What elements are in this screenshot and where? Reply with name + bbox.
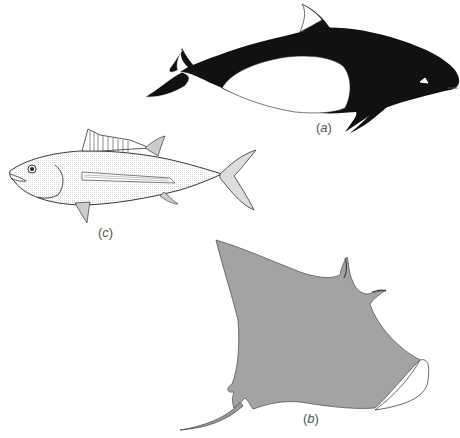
label-a-letter: a	[320, 120, 327, 135]
label-b: (b)	[303, 411, 319, 426]
label-b-letter: b	[307, 411, 314, 426]
illustration-canvas	[0, 0, 460, 438]
dolphin-tail-fluke	[145, 72, 189, 97]
tuna-tail-fin	[220, 150, 256, 210]
manta-ray-illustration	[180, 240, 429, 430]
label-b-close: )	[315, 411, 319, 426]
manta-ray-body	[216, 240, 420, 409]
label-c-close: )	[109, 225, 113, 240]
tuna-illustration	[10, 129, 256, 223]
label-c: (c)	[98, 225, 113, 240]
tuna-second-dorsal-fin	[145, 136, 165, 156]
dolphin-illustration	[145, 4, 459, 133]
tuna-pelvic-fin	[75, 202, 90, 223]
label-a-close: )	[328, 120, 332, 135]
marine-animals-figure: (a) (c) (b)	[0, 0, 460, 438]
label-a: (a)	[316, 120, 332, 135]
